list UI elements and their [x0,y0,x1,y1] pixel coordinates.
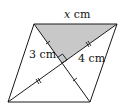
parallelogram-diagram: x cm 3 cm 4 cm [0,0,126,107]
label-top-x: x cm [64,8,91,21]
label-3cm: 3 cm [29,48,57,61]
label-4cm: 4 cm [78,52,106,65]
